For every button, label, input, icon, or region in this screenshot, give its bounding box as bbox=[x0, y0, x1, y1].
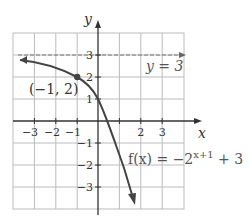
curve-down-arrow-icon bbox=[128, 193, 136, 205]
asymptote-label: y = 3 bbox=[145, 58, 184, 74]
y-tick-label: 2 bbox=[86, 71, 93, 84]
function-label-exponent: x+1 bbox=[193, 149, 213, 160]
y-axis-arrow-icon bbox=[95, 20, 101, 28]
function-label-tail: + 3 bbox=[214, 151, 244, 167]
y-tick-label: 3 bbox=[86, 49, 93, 62]
y-axis-label: y bbox=[83, 11, 93, 27]
x-tick-label: −3 bbox=[22, 126, 38, 139]
curve-left-arrow-icon bbox=[20, 56, 27, 64]
graph: −3 −2 −1 2 3 3 2 1 −1 −2 −3 y x (−1, 2) … bbox=[0, 0, 249, 222]
y-tick-label: −1 bbox=[77, 137, 93, 150]
y-tick-label: −3 bbox=[77, 181, 93, 194]
x-axis-label: x bbox=[198, 125, 206, 141]
x-tick-label: −2 bbox=[44, 126, 60, 139]
y-tick-label: −2 bbox=[77, 159, 93, 172]
function-label: f(x) = −2x+1 + 3 bbox=[128, 149, 243, 167]
function-label-main: f(x) = −2 bbox=[128, 151, 193, 167]
x-tick-label: 3 bbox=[159, 126, 166, 139]
point-marker bbox=[74, 74, 80, 80]
x-tick-label: 2 bbox=[137, 126, 144, 139]
y-tick-label: 1 bbox=[86, 93, 93, 106]
x-axis-arrow-icon bbox=[194, 118, 202, 124]
point-label: (−1, 2) bbox=[29, 81, 78, 97]
